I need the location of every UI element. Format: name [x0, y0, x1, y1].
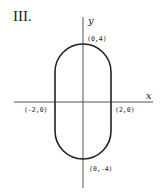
- point-label-left: (-2,0): [24, 106, 47, 114]
- x-axis-label: x: [146, 90, 152, 101]
- point-label-right: (2,0): [115, 106, 135, 114]
- y-axis-label: y: [87, 15, 94, 26]
- point-label-top: (0,4): [87, 35, 107, 43]
- graph: y x (0,4) (-2,0) (2,0) (0,-4): [0, 0, 164, 196]
- point-label-bottom: (0,-4): [89, 165, 112, 173]
